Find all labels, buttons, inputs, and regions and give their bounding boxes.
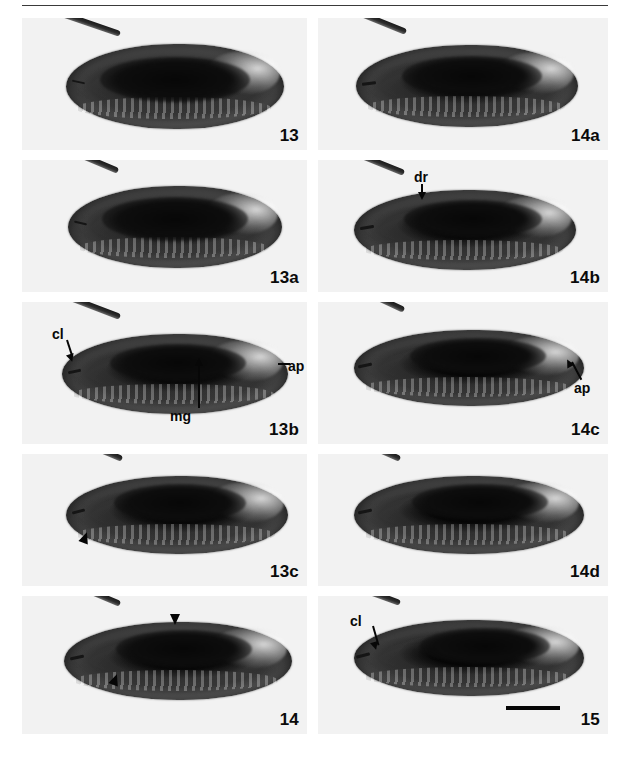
panel-14a[interactable]: 14a bbox=[318, 18, 608, 150]
appendage bbox=[329, 596, 401, 606]
panel-15[interactable]: cl 15 bbox=[318, 596, 608, 734]
panel-13[interactable]: 13 bbox=[22, 18, 307, 150]
annotation-ap-label: ap bbox=[288, 359, 304, 373]
annotation-cl-label: cl bbox=[350, 614, 362, 628]
embryo-specimen bbox=[22, 302, 307, 444]
embryo-specimen bbox=[22, 160, 307, 292]
top-rule-divider bbox=[22, 5, 608, 6]
yolk-mass bbox=[110, 344, 246, 382]
annotation-mg-label: mg bbox=[170, 409, 191, 423]
panel-14[interactable]: 14 bbox=[22, 596, 307, 734]
panel-number-label: 15 bbox=[581, 710, 600, 730]
appendage bbox=[52, 302, 121, 320]
panel-14d[interactable]: 14d bbox=[318, 454, 608, 586]
figure-plate: 13 14a 13a bbox=[0, 0, 627, 757]
annotation-dr-arrow-head bbox=[418, 192, 426, 200]
panel-14c[interactable]: ap 14c bbox=[318, 302, 608, 444]
embryo-specimen bbox=[22, 18, 307, 150]
appendage bbox=[336, 160, 405, 176]
appendage bbox=[337, 302, 405, 313]
panel-number-label: 14b bbox=[570, 268, 600, 288]
panel-number-label: 14c bbox=[571, 420, 600, 440]
yolk-mass bbox=[410, 338, 546, 374]
yolk-mass bbox=[404, 200, 542, 238]
panel-number-label: 14 bbox=[280, 710, 299, 730]
panel-14b[interactable]: dr 14b bbox=[318, 160, 608, 292]
panel-number-label: 13a bbox=[270, 268, 299, 288]
panel-number-label: 14d bbox=[570, 562, 600, 582]
panel-grid: 13 14a 13a bbox=[22, 18, 608, 734]
annotation-ap-tick bbox=[278, 363, 290, 365]
embryo-specimen bbox=[318, 18, 608, 150]
annotation-mg-arrow-head bbox=[195, 358, 203, 366]
embryo-specimen bbox=[318, 160, 608, 292]
appendage bbox=[55, 454, 124, 462]
embryo-specimen bbox=[318, 454, 608, 586]
panel-13c[interactable]: 13c bbox=[22, 454, 307, 586]
annotation-arrowhead-marker-dorsal bbox=[170, 614, 180, 625]
embryo-specimen bbox=[22, 596, 307, 734]
appendage bbox=[338, 18, 407, 35]
yolk-mass bbox=[100, 57, 250, 102]
panel-number-label: 14a bbox=[571, 126, 600, 146]
annotation-cl-label: cl bbox=[52, 327, 64, 341]
panel-13b[interactable]: cl ap mg 13b bbox=[22, 302, 307, 444]
annotation-mg-arrow-shaft bbox=[198, 360, 200, 408]
yolk-mass bbox=[116, 630, 252, 668]
embryo-specimen bbox=[318, 302, 608, 444]
appendage bbox=[49, 18, 121, 37]
panel-13a[interactable]: 13a bbox=[22, 160, 307, 292]
panel-number-label: 13c bbox=[270, 562, 299, 582]
scale-bar bbox=[506, 706, 560, 710]
embryo-specimen bbox=[22, 454, 307, 586]
appendage bbox=[53, 596, 122, 607]
appendage bbox=[52, 160, 119, 174]
yolk-mass bbox=[114, 484, 246, 522]
yolk-mass bbox=[402, 56, 542, 96]
yolk-mass bbox=[420, 628, 550, 664]
panel-number-label: 13 bbox=[280, 126, 299, 146]
appendage bbox=[335, 454, 401, 462]
yolk-mass bbox=[102, 197, 248, 241]
annotation-dr-label: dr bbox=[414, 170, 428, 184]
annotation-ap-label: ap bbox=[574, 381, 590, 395]
panel-number-label: 13b bbox=[269, 420, 299, 440]
yolk-mass bbox=[412, 484, 548, 520]
